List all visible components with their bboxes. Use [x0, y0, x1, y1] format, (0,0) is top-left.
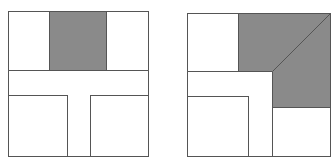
left-top-left-box	[9, 12, 50, 71]
right-top-left-box	[188, 14, 239, 72]
right-lower-right-box	[273, 108, 331, 157]
right-lower-left-box	[188, 97, 249, 157]
left-shaded-rect	[50, 12, 107, 71]
right-figure	[188, 14, 331, 157]
left-figure	[9, 12, 149, 157]
left-lower-right-box	[91, 96, 149, 157]
left-lower-left-box	[9, 96, 68, 157]
left-top-right-box	[107, 12, 149, 71]
diagram-canvas	[0, 0, 336, 165]
